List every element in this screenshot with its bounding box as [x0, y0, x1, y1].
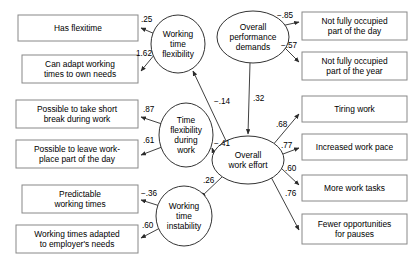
observed-variable-can_adapt_working_times: Can adapt workingtimes to own needs	[22, 55, 138, 83]
observed-label-not_fully_occupied_year: part of the year	[326, 66, 383, 76]
observed-label-possible_short_break: break during work	[44, 114, 111, 124]
latent-label-overall_performance_demands: Overall	[240, 22, 267, 32]
observed-label-predictable_working_times: working times	[53, 199, 105, 209]
sem-canvas: Has flexitimeCan adapt workingtimes to o…	[0, 0, 418, 264]
observed-label-not_fully_occupied_day: Not fully occupied	[321, 16, 387, 26]
latent-label-overall_work_effort: work effort	[228, 160, 269, 170]
observed-variable-possible_leave_workplace: Possible to leave work-place part of the…	[16, 140, 138, 168]
coefficient-owe_to_wti: .26	[203, 176, 215, 185]
path-wti_to_predictable	[141, 200, 160, 206]
latent-label-time_flexibility_during_work: flexibility	[170, 125, 202, 135]
observed-label-working_times_adapted_employer: to employer's needs	[40, 239, 115, 249]
sem-diagram: Has flexitimeCan adapt workingtimes to o…	[0, 0, 418, 264]
observed-label-increased_work_pace: Increased work pace	[316, 142, 394, 152]
path-tfdw_to_short_break	[141, 117, 162, 124]
latent-label-time_flexibility_during_work: Time	[177, 115, 196, 125]
latent-label-working_time_instability: instability	[167, 221, 202, 231]
coefficient-opd_to_not_occupied_year: −.57	[281, 41, 298, 50]
observed-label-working_times_adapted_employer: Working times adapted	[34, 229, 120, 239]
observed-label-can_adapt_working_times: Can adapt working	[45, 59, 115, 69]
observed-variable-increased_work_pace: Increased work pace	[302, 134, 407, 160]
observed-label-can_adapt_working_times: times to own needs	[44, 69, 116, 79]
latent-label-overall_performance_demands: performance	[229, 32, 276, 42]
latent-label-overall_performance_demands: demands	[236, 42, 270, 52]
coefficient-wtf_to_has_flexitime: .25	[141, 15, 153, 24]
latent-label-time_flexibility_during_work: work	[176, 145, 195, 155]
observed-label-tiring_work: Tiring work	[334, 104, 375, 114]
latent-label-working_time_flexibility: flexibility	[162, 49, 194, 59]
observed-label-not_fully_occupied_year: Not fully occupied	[321, 56, 387, 66]
coefficient-tfdw_to_short_break: .87	[143, 105, 155, 114]
observed-variable-has_flexitime: Has flexitime	[18, 15, 138, 41]
coefficient-owe_to_increased_pace: .77	[281, 141, 293, 150]
observed-label-has_flexitime: Has flexitime	[54, 23, 102, 33]
latent-label-working_time_instability: time	[176, 211, 192, 221]
observed-variable-tiring_work: Tiring work	[302, 96, 407, 122]
path-owe_to_fewer_pauses	[271, 177, 299, 230]
observed-label-possible_short_break: Possible to take short	[37, 104, 118, 114]
observed-variable-fewer_opportunities_pauses: Fewer opportunitiesfor pauses	[302, 214, 407, 244]
observed-variable-possible_short_break: Possible to take shortbreak during work	[16, 100, 138, 128]
latent-label-time_flexibility_during_work: during	[174, 135, 198, 145]
path-opd_to_owe	[248, 63, 250, 134]
observed-variable-working_times_adapted_employer: Working times adaptedto employer's needs	[16, 225, 138, 253]
observed-variable-predictable_working_times: Predictableworking times	[22, 185, 138, 213]
latent-variable-working_time_instability: Workingtimeinstability	[156, 186, 212, 246]
observed-label-predictable_working_times: Predictable	[59, 189, 101, 199]
coefficient-owe_to_tfdw: −.41	[214, 139, 231, 148]
coefficient-owe_to_tiring_work: .68	[276, 120, 288, 129]
coefficient-opd_to_owe: .32	[253, 94, 265, 103]
coefficient-owe_to_wtf: −.14	[214, 97, 231, 106]
coefficient-owe_to_more_tasks: .60	[285, 164, 297, 173]
latent-label-overall_work_effort: Overall	[235, 150, 262, 160]
observed-label-possible_leave_workplace: Possible to leave work-	[34, 144, 120, 154]
observed-label-fewer_opportunities_pauses: Fewer opportunities	[318, 219, 392, 229]
coefficient-opd_to_not_occupied_day: −.85	[277, 11, 294, 20]
observed-label-fewer_opportunities_pauses: for pauses	[335, 229, 374, 239]
coefficient-wti_to_adapted_employer: .60	[142, 221, 154, 230]
latent-label-working_time_flexibility: time	[170, 39, 186, 49]
latent-label-working_time_flexibility: Working	[163, 29, 194, 39]
observed-label-possible_leave_workplace: place part of the day	[39, 154, 116, 164]
coefficient-owe_to_fewer_pauses: .76	[285, 189, 297, 198]
coefficient-tfdw_to_leave_workplace: .61	[143, 136, 155, 145]
observed-label-more_work_tasks: More work tasks	[324, 183, 385, 193]
observed-label-not_fully_occupied_day: part of the day	[328, 26, 382, 36]
latent-label-working_time_instability: Working	[169, 201, 200, 211]
latent-variable-working_time_flexibility: Workingtimeflexibility	[151, 15, 205, 73]
coefficient-wti_to_predictable: −.36	[141, 189, 158, 198]
coefficient-wtf_to_can_adapt: 1.62	[136, 49, 152, 58]
observed-variable-more_work_tasks: More work tasks	[302, 175, 407, 201]
latent-variable-time_flexibility_during_work: Timeflexibilityduringwork	[159, 103, 213, 167]
observed-variable-not_fully_occupied_year: Not fully occupiedpart of the year	[302, 52, 407, 80]
observed-variable-not_fully_occupied_day: Not fully occupiedpart of the day	[302, 12, 407, 40]
path-tfdw_to_leave_workplace	[141, 147, 162, 155]
